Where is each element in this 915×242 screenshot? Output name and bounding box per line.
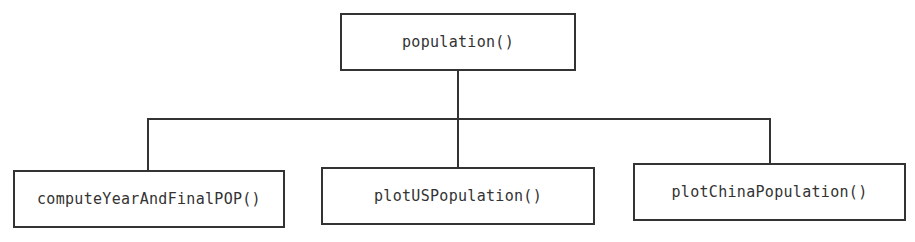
child-function-label: plotUSPopulation() xyxy=(374,187,542,205)
child-function-box-plot-china: plotChinaPopulation() xyxy=(633,163,906,221)
right-child-connector-line xyxy=(769,118,771,164)
hierarchy-diagram: population() computeYearAndFinalPOP() pl… xyxy=(0,0,915,242)
root-function-box: population() xyxy=(340,13,576,71)
horizontal-bus-line xyxy=(147,118,771,120)
root-function-label: population() xyxy=(402,33,514,51)
root-connector-line xyxy=(457,70,459,120)
child-function-box-plot-us: plotUSPopulation() xyxy=(321,167,595,225)
child-function-label: plotChinaPopulation() xyxy=(672,183,868,201)
left-child-connector-line xyxy=(147,118,149,171)
middle-child-connector-line xyxy=(457,118,459,168)
child-function-label: computeYearAndFinalPOP() xyxy=(37,190,261,208)
child-function-box-compute: computeYearAndFinalPOP() xyxy=(13,170,285,228)
